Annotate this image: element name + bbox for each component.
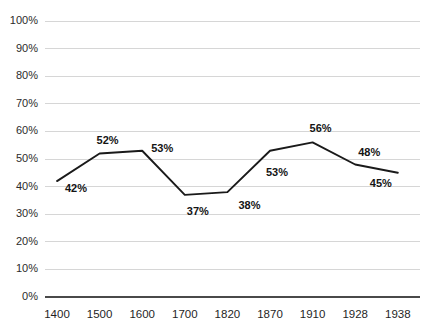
y-tick-label: 40% (16, 180, 38, 192)
x-tick-label: 1400 (44, 308, 70, 320)
x-tick-label: 1870 (257, 308, 283, 320)
x-tick-label: 1938 (385, 308, 411, 320)
data-point-label: 48% (358, 146, 380, 158)
line-chart: 0%10%20%30%40%50%60%70%80%90%100% 140015… (0, 0, 423, 330)
chart-page: 0%10%20%30%40%50%60%70%80%90%100% 140015… (0, 0, 423, 330)
data-point-label: 37% (187, 205, 209, 217)
data-point-label: 52% (97, 134, 119, 146)
data-point-label: 38% (238, 199, 260, 211)
x-tick-label: 1820 (215, 308, 241, 320)
y-tick-label: 60% (16, 124, 38, 136)
y-tick-label: 30% (16, 207, 38, 219)
data-point-label: 53% (151, 142, 173, 154)
x-tick-label: 1910 (300, 308, 326, 320)
data-point-label: 42% (65, 182, 87, 194)
y-tick-label: 0% (22, 290, 38, 302)
data-point-label: 53% (266, 166, 288, 178)
data-point-label: 56% (310, 122, 332, 134)
x-tick-label: 1700 (172, 308, 198, 320)
x-tick-label: 1928 (342, 308, 368, 320)
y-tick-label: 20% (16, 235, 38, 247)
y-tick-label: 10% (16, 262, 38, 274)
y-tick-label: 50% (16, 152, 38, 164)
y-tick-label: 90% (16, 42, 38, 54)
y-tick-label: 100% (10, 14, 38, 26)
y-tick-label: 70% (16, 97, 38, 109)
data-point-label: 45% (370, 177, 392, 189)
y-tick-label: 80% (16, 69, 38, 81)
x-axis-tick-labels: 140015001600170018201870191019281938 (44, 308, 410, 320)
x-tick-label: 1500 (87, 308, 113, 320)
x-tick-label: 1600 (129, 308, 155, 320)
